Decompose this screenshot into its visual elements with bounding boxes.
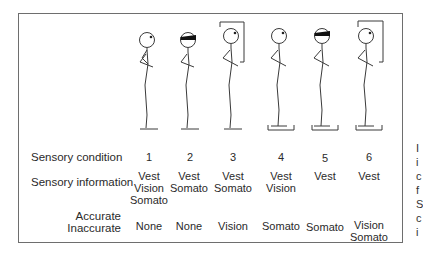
figure-condition-2 [181, 33, 200, 130]
eye-icon [150, 36, 153, 39]
accurate-cell-3: VestSomato [208, 170, 258, 194]
inaccurate-cell-2: None [164, 220, 214, 232]
figure-condition-5 [312, 29, 338, 131]
accurate-cell-2: VestSomato [164, 170, 214, 194]
sensory-condition-label: Sensory condition [31, 151, 122, 163]
inaccurate-label: Inaccurate [31, 222, 121, 234]
accurate-cell-6: Vest [344, 170, 394, 182]
inaccurate-cell-5: Somato [300, 221, 350, 233]
inaccurate-cell-3: Vision [208, 220, 258, 232]
figure-condition-4 [268, 29, 294, 131]
condition-number: 6 [344, 151, 394, 163]
condition-number: 3 [208, 151, 258, 163]
inaccurate-cell-4: Somato [256, 220, 306, 232]
figure-condition-6 [356, 21, 383, 130]
accurate-cell-4: VestVision [256, 170, 306, 194]
accurate-label: Accurate [31, 210, 121, 222]
figure-condition-1 [140, 33, 159, 130]
condition-number: 5 [300, 152, 350, 164]
figure-condition-3 [220, 22, 244, 129]
accurate-cell-5: Vest [300, 170, 350, 182]
condition-number: 4 [256, 151, 306, 163]
cut-off-caption: I i c f S c i [416, 141, 423, 239]
sensory-information-label: Sensory information [31, 176, 133, 188]
inaccurate-cell-6: VisionSomato [344, 219, 394, 243]
